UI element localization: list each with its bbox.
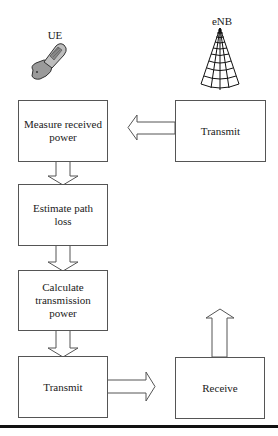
- arrow-down-3: [48, 330, 78, 357]
- step-estimate-path-loss: Estimate path loss: [18, 184, 108, 246]
- arrow-down-1: [48, 161, 78, 185]
- step-calculate-transmission-power: Calculate transmission power: [18, 270, 108, 331]
- step-enb-receive: Receive: [175, 357, 265, 419]
- mobile-phone-icon: [32, 44, 66, 79]
- step-ue-transmit: Transmit: [18, 356, 108, 418]
- arrow-down-2: [48, 245, 78, 271]
- arrow-up-receive: [206, 309, 234, 357]
- bottom-rule: [0, 425, 278, 428]
- arrow-ue-to-enb: [107, 372, 155, 401]
- cell-tower-icon: [201, 28, 239, 90]
- arrow-enb-to-ue: [128, 115, 175, 140]
- step-enb-transmit: Transmit: [175, 100, 266, 162]
- step-measure-received-power: Measure received power: [18, 100, 108, 162]
